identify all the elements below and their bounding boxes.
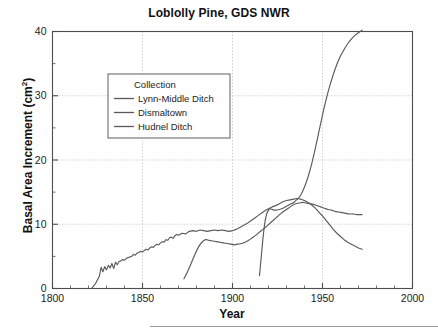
x-axis-label: Year <box>52 307 412 321</box>
x-tick-label: 1850 <box>131 292 155 304</box>
data-series-group <box>92 30 362 288</box>
page-divider-rule <box>150 326 438 327</box>
legend: CollectionLynn-Middle DitchDismaltownHud… <box>108 74 230 138</box>
series-line-dismaltown <box>184 202 362 278</box>
y-tick-label: 10 <box>35 218 47 230</box>
y-tick-label: 40 <box>35 25 47 37</box>
chart-title: Loblolly Pine, GDS NWR <box>0 6 438 20</box>
y-tick-label: 30 <box>35 89 47 101</box>
y-tick-label: 20 <box>35 154 47 166</box>
x-tick-label: 2000 <box>401 292 425 304</box>
y-axis-label-text: Basal Area Increment (cm2) <box>21 78 35 233</box>
legend-title: Collection <box>134 79 176 90</box>
legend-label-hudnel-ditch: Hudnel Ditch <box>138 121 192 132</box>
axis-tick-labels: 18001850190019502000010203040 <box>35 25 425 303</box>
y-axis-label: Basal Area Increment (cm2) <box>20 41 35 271</box>
series-line-hudnel-ditch <box>260 30 363 275</box>
x-tick-label: 1900 <box>221 292 245 304</box>
legend-label-lynn-middle-ditch: Lynn-Middle Ditch <box>138 93 214 104</box>
y-tick-label: 0 <box>41 282 47 294</box>
legend-label-dismaltown: Dismaltown <box>138 107 187 118</box>
gridlines <box>53 32 413 289</box>
x-tick-label: 1950 <box>311 292 335 304</box>
plot-area: 18001850190019502000010203040CollectionL… <box>0 0 438 332</box>
chart-figure: Loblolly Pine, GDS NWR Basal Area Increm… <box>0 0 438 332</box>
